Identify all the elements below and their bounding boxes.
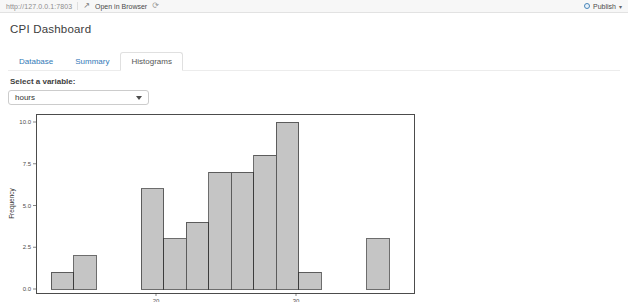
y-tick-label: 2.5 [23, 244, 32, 250]
histogram-bar [231, 172, 254, 289]
viewer-url: http://127.0.0.1:7803 [6, 3, 72, 10]
y-tick-label: 5.0 [23, 203, 32, 209]
histogram-bar [254, 155, 277, 289]
toolbar-divider [77, 2, 78, 10]
histogram-bar [209, 172, 232, 289]
tab-database[interactable]: Database [8, 52, 64, 71]
publish-icon[interactable] [584, 3, 590, 9]
histogram-bar [51, 272, 74, 289]
variable-select-label: Select a variable: [10, 77, 620, 86]
y-tick-label: 0.0 [23, 286, 32, 292]
publish-caret-icon[interactable]: ▾ [619, 3, 622, 10]
histogram-bar [141, 189, 164, 289]
variable-select-value: hours [15, 93, 35, 102]
x-tick-label: 30 [293, 298, 300, 302]
x-tick-label: 20 [153, 298, 160, 302]
viewer-toolbar: http://127.0.0.1:7803 ↗ Open in Browser … [0, 0, 628, 13]
open-in-browser-button[interactable]: Open in Browser [95, 3, 147, 10]
open-in-browser-icon[interactable]: ↗ [83, 2, 90, 10]
histogram-plot: 0.02.55.07.510.02030Frequency [8, 108, 420, 302]
refresh-icon[interactable]: ⟳ [152, 2, 159, 10]
page-title: CPI Dashboard [10, 23, 620, 35]
tabset: DatabaseSummaryHistograms [8, 52, 620, 71]
histogram-bar [276, 122, 299, 289]
publish-button[interactable]: Publish [593, 3, 616, 10]
select-caret-icon [136, 96, 142, 100]
histogram-bar [367, 239, 390, 289]
histogram-svg: 0.02.55.07.510.02030Frequency [8, 108, 420, 302]
histogram-bar [186, 222, 209, 289]
histogram-bar [74, 256, 97, 289]
histogram-bar [299, 272, 322, 289]
tab-summary[interactable]: Summary [64, 52, 120, 71]
y-tick-label: 10.0 [19, 119, 31, 125]
app-content: CPI Dashboard DatabaseSummaryHistograms … [0, 23, 628, 302]
y-tick-label: 7.5 [23, 161, 32, 167]
variable-select[interactable]: hours [8, 90, 149, 105]
histogram-bar [164, 239, 187, 289]
tab-histograms[interactable]: Histograms [120, 52, 182, 71]
y-axis-label: Frequency [8, 187, 16, 218]
